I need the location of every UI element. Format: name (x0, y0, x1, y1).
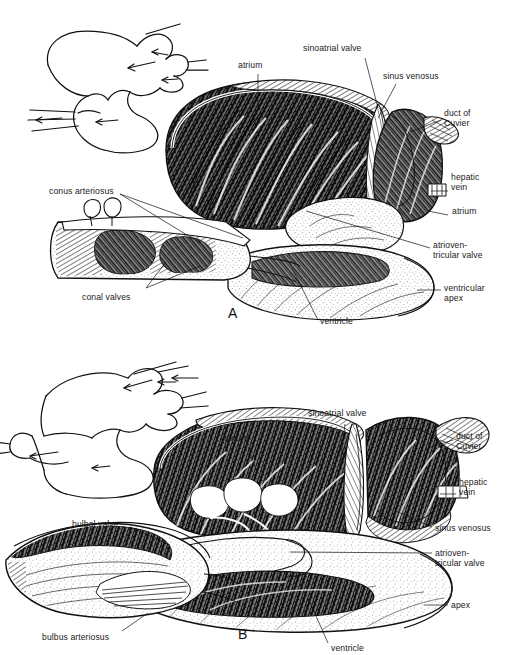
hepatic-vein-a (428, 184, 446, 196)
label-ventricle-b: ventricle (331, 643, 364, 653)
label-ventricle: ventricle (320, 316, 353, 326)
label-conus-arteriosus: conus arteriosus (49, 186, 114, 196)
label-apex-b: apex (451, 600, 470, 610)
label-atrioventricular-valve: atrioven- tricular valve (433, 240, 483, 261)
panel-letter-a: A (228, 306, 237, 320)
label-atrioventricular-valve-b: atrioven- tricular valve (435, 548, 485, 569)
panel-a: atrium sinoatrial valve sinus venosus du… (0, 0, 522, 340)
label-bulbus-arteriosus-b: bulbus arteriosus (42, 632, 109, 642)
label-sinoatrial-valve: sinoatrial valve (303, 43, 361, 53)
label-sinus-venosus: sinus venosus (383, 71, 439, 81)
label-bulbal-valve-b: bulbal valve (72, 519, 119, 529)
label-hepatic-vein: hepatic vein (451, 172, 479, 193)
label-sinoatrial-valve-b: sinoatrial valve (308, 408, 366, 418)
ventricle-chamber-a (228, 245, 434, 320)
panel-letter-b: B (238, 627, 247, 641)
label-ventricular-apex: ventricular apex (444, 283, 485, 304)
label-atrium-right: atrium (452, 206, 476, 216)
atrium-chamber-b (154, 408, 364, 542)
panel-b: sinoatrial valve atrium duct of Cuvier h… (0, 340, 522, 655)
label-conal-valves: conal valves (82, 292, 131, 302)
label-duct-of-cuvier-b: duct of Cuvier (456, 431, 483, 452)
anatomical-figure: atrium sinoatrial valve sinus venosus du… (0, 0, 522, 655)
panel-b-artwork (0, 340, 522, 655)
label-atrium: atrium (238, 60, 262, 70)
label-duct-of-cuvier: duct of Cuvier (444, 108, 471, 129)
label-hepatic-vein-b: hepatic vein (459, 477, 487, 498)
label-atrium-b: atrium (224, 433, 248, 443)
label-sinus-venosus-b: sinus venosus (435, 523, 491, 533)
